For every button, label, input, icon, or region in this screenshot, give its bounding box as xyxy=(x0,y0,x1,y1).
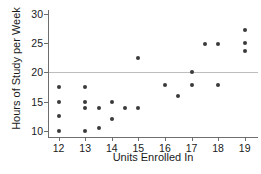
x-tick-18 xyxy=(218,137,219,141)
y-tick-30 xyxy=(44,14,49,15)
scatter-plot-figure: 1015202530 1213141516171819 Units Enroll… xyxy=(0,0,261,174)
data-point xyxy=(243,41,247,45)
data-point xyxy=(136,56,140,60)
y-tick-label-25: 25 xyxy=(31,38,43,49)
data-point xyxy=(163,83,167,87)
y-axis-line xyxy=(48,10,49,137)
data-point xyxy=(190,83,194,87)
x-tick-13 xyxy=(85,137,86,141)
plot-area: 1015202530 1213141516171819 xyxy=(48,10,258,137)
x-axis-line xyxy=(48,137,258,138)
y-axis-title: Hours of Study per Week xyxy=(11,4,22,134)
data-point xyxy=(243,28,247,32)
data-point xyxy=(83,129,87,133)
data-point xyxy=(216,42,220,46)
x-tick-14 xyxy=(112,137,113,141)
y-tick-10 xyxy=(44,131,49,132)
data-point xyxy=(57,100,61,104)
x-tick-16 xyxy=(165,137,166,141)
data-point xyxy=(136,106,140,110)
data-point xyxy=(110,117,114,121)
data-point xyxy=(190,70,194,74)
data-point xyxy=(123,106,127,110)
y-tick-label-15: 15 xyxy=(31,96,43,107)
data-point xyxy=(97,106,101,110)
data-point xyxy=(57,114,61,118)
y-tick-label-20: 20 xyxy=(31,67,43,78)
y-tick-label-10: 10 xyxy=(31,126,43,137)
data-point xyxy=(83,106,87,110)
data-point xyxy=(57,85,61,89)
y-tick-20 xyxy=(44,72,49,73)
x-tick-19 xyxy=(245,137,246,141)
data-point xyxy=(83,85,87,89)
x-tick-12 xyxy=(59,137,60,141)
data-point xyxy=(110,100,114,104)
data-point xyxy=(216,83,220,87)
x-axis-title: Units Enrolled In xyxy=(48,152,258,163)
x-tick-17 xyxy=(192,137,193,141)
data-point xyxy=(243,49,247,53)
y-tick-label-30: 30 xyxy=(31,8,43,19)
x-tick-15 xyxy=(138,137,139,141)
reference-line-y20 xyxy=(48,72,258,73)
data-point xyxy=(203,42,207,46)
data-point xyxy=(57,129,61,133)
data-point xyxy=(83,100,87,104)
data-point xyxy=(176,94,180,98)
data-point xyxy=(97,126,101,130)
y-tick-15 xyxy=(44,102,49,103)
y-tick-25 xyxy=(44,43,49,44)
